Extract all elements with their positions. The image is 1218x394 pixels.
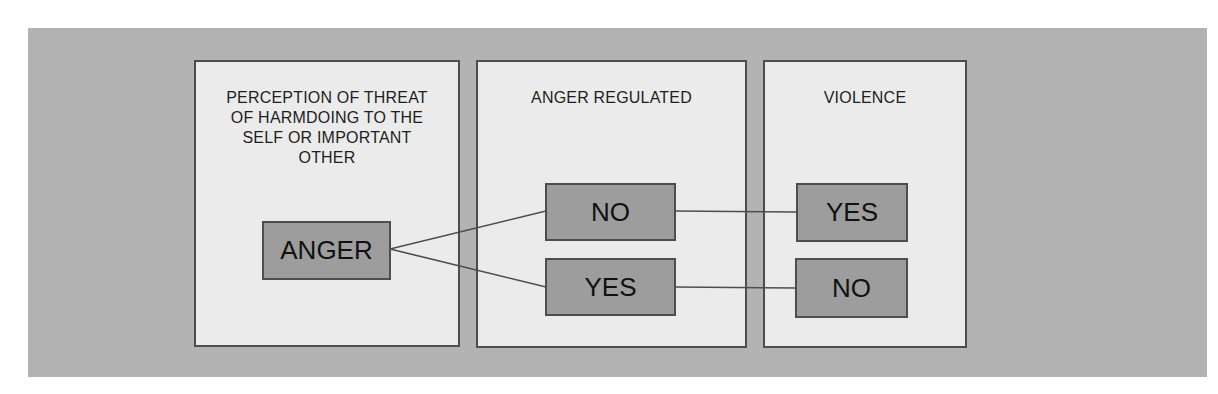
node-anger: ANGER [262,221,391,280]
edge-anger-to-regulated-no [390,211,546,249]
edge-regulated-no-to-violence-yes [675,211,797,212]
edge-anger-to-regulated-yes [390,249,546,287]
node-violence-no: NO [795,258,908,318]
node-violence-yes: YES [796,183,908,242]
edge-regulated-yes-to-violence-no [675,287,797,288]
node-regulated-no: NO [545,183,676,241]
node-regulated-yes: YES [545,258,676,316]
